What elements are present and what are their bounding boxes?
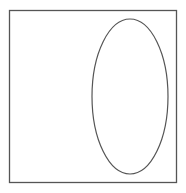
- square-outline: [10, 11, 177, 183]
- diagram-canvas: [0, 0, 186, 193]
- ellipse-outline: [92, 19, 168, 174]
